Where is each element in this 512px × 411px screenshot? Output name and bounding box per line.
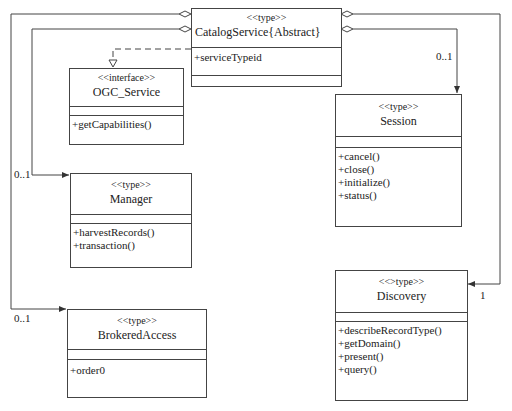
aggregation-diamond-manager (179, 26, 191, 32)
class-discovery[interactable]: <<>type>> Discovery +describeRecordType(… (335, 270, 468, 401)
class-manager[interactable]: <<type>> Manager +harvestRecords() +tran… (70, 173, 192, 268)
operation: +getDomain() (338, 337, 467, 350)
class-header: <<interface>> OGC_Service (70, 69, 183, 107)
attributes-compartment: +serviceTypeid (192, 48, 341, 76)
multiplicity-session: 0..1 (436, 50, 453, 62)
attribute: +serviceTypeid (194, 51, 262, 63)
class-name: Discovery (336, 288, 467, 304)
multiplicity-discovery: 1 (480, 289, 486, 301)
aggregation-diamond-brokered (179, 11, 191, 17)
operation: +harvestRecords() (73, 226, 191, 239)
class-name: Session (336, 113, 461, 129)
operation: +cancel() (338, 150, 461, 163)
attributes-compartment (71, 215, 191, 224)
class-brokered-access[interactable]: <<type>> BrokeredAccess +order0 (67, 309, 207, 398)
class-name: CatalogService{Abstract} (192, 24, 341, 40)
realization-ogc (113, 49, 191, 60)
realization-triangle (109, 60, 117, 67)
operation: +initialize() (338, 176, 461, 189)
class-name: OGC_Service (70, 84, 183, 100)
class-header: <<type>> Session (336, 95, 461, 137)
class-name: Manager (71, 191, 191, 207)
multiplicity-manager: 0..1 (14, 168, 31, 180)
operations-compartment: +getCapabilities() (70, 116, 183, 131)
stereotype-label: <<type>> (71, 174, 191, 191)
operations-compartment: +cancel() +close() +initialize() +status… (336, 148, 461, 202)
class-session[interactable]: <<type>> Session +cancel() +close() +ini… (335, 94, 462, 227)
operations-compartment: +harvestRecords() +transaction() (71, 224, 191, 252)
class-name: BrokeredAccess (68, 327, 206, 343)
operation: +close() (338, 163, 461, 176)
stereotype-label: <<type>> (192, 9, 341, 24)
attributes-compartment (68, 350, 206, 360)
operation: +describeRecordType() (338, 324, 467, 337)
attributes-compartment (336, 313, 467, 322)
operations-compartment: +order0 (68, 360, 206, 377)
operation: +transaction() (73, 239, 191, 252)
operation: +getCapabilities() (72, 118, 183, 131)
attributes-compartment (70, 107, 183, 116)
stereotype-label: <<type>> (68, 310, 206, 327)
operation: +present() (338, 350, 467, 363)
operations-compartment (192, 76, 341, 78)
class-catalog-service[interactable]: <<type>> CatalogService{Abstract} +servi… (191, 8, 342, 87)
stereotype-label: <<interface>> (70, 69, 183, 84)
class-header: <<type>> BrokeredAccess (68, 310, 206, 350)
attributes-compartment (336, 137, 461, 148)
operation: +status() (338, 189, 461, 202)
operation: +order0 (70, 364, 206, 377)
class-ogc-service[interactable]: <<interface>> OGC_Service +getCapabiliti… (69, 68, 184, 145)
class-header: <<type>> CatalogService{Abstract} (192, 9, 341, 48)
stereotype-label: <<>type>> (336, 271, 467, 288)
operations-compartment: +describeRecordType() +getDomain() +pres… (336, 322, 467, 376)
aggregation-diamond-discovery (341, 11, 353, 17)
multiplicity-brokered: 0..1 (14, 312, 31, 324)
operation: +query() (338, 363, 467, 376)
class-header: <<type>> Manager (71, 174, 191, 215)
aggregation-diamond-session (341, 26, 353, 32)
stereotype-label: <<type>> (336, 95, 461, 113)
class-header: <<>type>> Discovery (336, 271, 467, 313)
